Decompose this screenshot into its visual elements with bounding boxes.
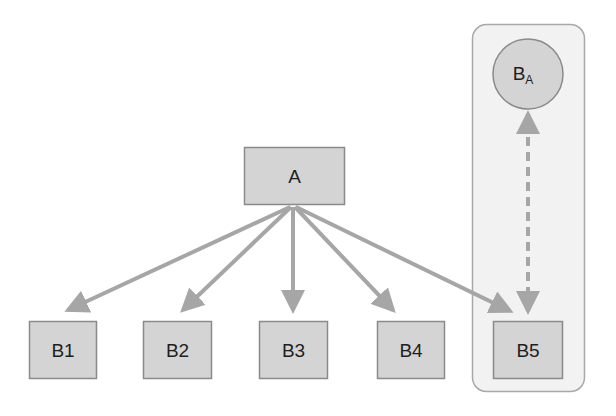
- node-a-label: A: [288, 166, 301, 187]
- node-b3[interactable]: B3: [260, 322, 328, 379]
- node-b2-label: B2: [166, 340, 189, 361]
- node-b5-label: B5: [516, 340, 539, 361]
- node-ba[interactable]: BA: [493, 39, 563, 109]
- node-ba-main: B: [513, 63, 526, 84]
- node-b4-label: B4: [399, 340, 423, 361]
- edge-a-b4: [295, 207, 393, 310]
- node-b1-label: B1: [51, 340, 74, 361]
- node-a[interactable]: A: [245, 148, 345, 205]
- edges: [68, 114, 528, 311]
- edge-a-b2: [183, 207, 291, 310]
- node-b2[interactable]: B2: [144, 322, 212, 379]
- node-b5[interactable]: B5: [494, 322, 563, 379]
- node-b1[interactable]: B1: [30, 322, 97, 379]
- node-ba-subscript: A: [525, 73, 533, 87]
- edge-a-b1: [68, 207, 290, 310]
- node-b3-label: B3: [282, 340, 305, 361]
- node-b4[interactable]: B4: [378, 322, 445, 379]
- diagram-canvas: A B1 B2 B3 B4 B5 BA: [0, 0, 616, 416]
